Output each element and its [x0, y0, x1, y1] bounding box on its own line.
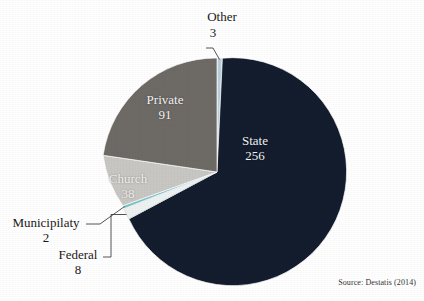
pie-chart-figure: State 256 Private 91 Church 38 Other 3 M…	[0, 0, 424, 301]
leader-line-federal	[103, 215, 127, 258]
source-note: Source: Destatis (2014)	[338, 278, 416, 287]
pie-chart-canvas	[0, 0, 424, 301]
pie-slice-private[interactable]	[103, 58, 217, 172]
leader-line-municipality	[86, 207, 125, 225]
pie-slices	[103, 58, 347, 286]
